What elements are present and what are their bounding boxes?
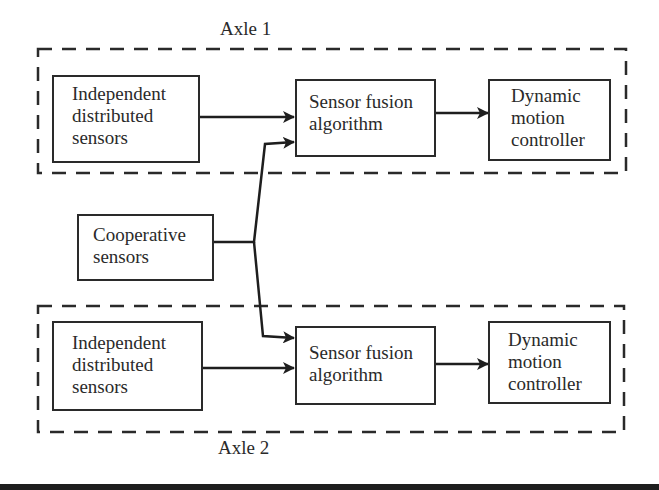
sensor-fusion-algorithm-axle-1: Sensor fusion algorithm <box>295 79 436 157</box>
bottom-rule <box>0 484 659 490</box>
axle-2-label: Axle 2 <box>218 437 269 459</box>
independent-distributed-sensors-axle-1: Independent distributed sensors <box>52 75 200 163</box>
sensor-fusion-algorithm-axle-2: Sensor fusion algorithm <box>295 326 436 405</box>
dynamic-motion-controller-axle-2: Dynamic motion controller <box>488 321 611 404</box>
independent-distributed-sensors-axle-2: Independent distributed sensors <box>52 321 203 411</box>
axle-1-label: Axle 1 <box>220 18 271 40</box>
dynamic-motion-controller-axle-1: Dynamic motion controller <box>488 79 611 161</box>
edge-coop-to-sfa1 <box>213 142 294 242</box>
edge-coop-to-sfa2 <box>254 242 294 338</box>
cooperative-sensors: Cooperative sensors <box>77 214 214 281</box>
